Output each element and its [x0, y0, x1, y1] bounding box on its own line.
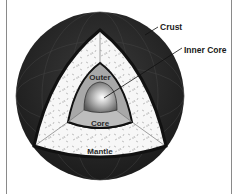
- outer-core-label-top: Outer: [89, 73, 110, 82]
- inner-core-label: Inner Core: [184, 45, 227, 55]
- outer-core-label-bottom: Core: [91, 119, 110, 128]
- mantle-label: Mantle: [87, 147, 113, 156]
- earth-layers-diagram: Crust Inner Core Outer Core Mantle: [0, 0, 244, 194]
- crust-label: Crust: [160, 22, 182, 32]
